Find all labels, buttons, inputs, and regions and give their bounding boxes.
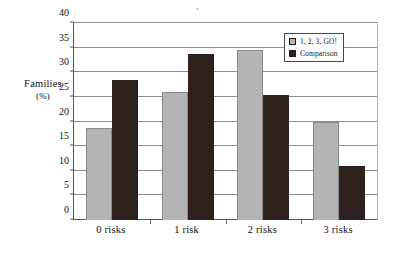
y-tick-label: 10 <box>59 154 69 165</box>
y-tick-label: 40 <box>59 7 69 18</box>
legend-item[interactable]: 1, 2, 3, GO! <box>289 37 338 46</box>
bar-series-b[interactable] <box>188 54 214 220</box>
legend-item[interactable]: Comparison <box>289 49 338 58</box>
y-tick-label: 25 <box>59 80 69 91</box>
legend-swatch-icon <box>289 50 296 57</box>
y-tick-label: 15 <box>59 130 69 141</box>
y-tick-label: 20 <box>59 105 69 116</box>
y-tick-label: 0 <box>64 204 69 215</box>
bar-series-a[interactable] <box>313 122 339 221</box>
bar-chart-figure: Families (%) 0510152025303540 0 risks1 r… <box>0 0 397 253</box>
scan-artifact-speck <box>196 8 199 10</box>
bar-group <box>150 23 226 220</box>
x-axis-label: 1 risk <box>149 224 225 235</box>
y-axis-title-line2: (%) <box>14 90 72 102</box>
chart-legend: 1, 2, 3, GO!Comparison <box>284 33 344 62</box>
y-tick-label: 30 <box>59 56 69 67</box>
bar-group <box>74 23 150 220</box>
bar-series-a[interactable] <box>237 50 263 220</box>
bar-series-b[interactable] <box>339 166 365 220</box>
y-tick-label: 35 <box>59 31 69 42</box>
legend-label: 1, 2, 3, GO! <box>300 37 337 46</box>
x-axis-labels: 0 risks1 risk2 risks3 risks <box>73 224 376 235</box>
bar-series-a[interactable] <box>86 128 112 220</box>
y-tick-label: 5 <box>64 179 69 190</box>
x-axis-label: 3 risks <box>300 224 376 235</box>
x-axis-label: 0 risks <box>73 224 149 235</box>
legend-label: Comparison <box>300 49 338 58</box>
bar-series-b[interactable] <box>112 80 138 220</box>
bar-series-a[interactable] <box>162 92 188 220</box>
legend-swatch-icon <box>289 38 296 45</box>
x-axis-label: 2 risks <box>225 224 301 235</box>
bar-series-b[interactable] <box>263 95 289 220</box>
